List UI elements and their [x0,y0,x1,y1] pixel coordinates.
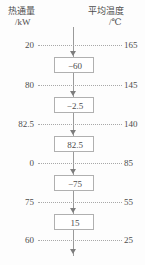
temperature-divider-line [38,85,122,86]
flow-arrow-icon [70,51,76,56]
interval-row: 60 25 [0,235,145,247]
temperature-divider-line [38,240,122,241]
flux-value: 60 [0,235,34,246]
interval-load-label: −75 [55,176,95,192]
temperature-divider-line [38,45,122,46]
interval-load-box: 82.5 [54,136,94,152]
flux-value: 0 [0,158,34,169]
flow-arrow-icon [70,169,76,174]
temperature-divider-line [38,124,122,125]
temperature-value: 145 [124,80,145,91]
flow-arrow-icon [70,208,76,213]
flux-value: 75 [0,197,34,208]
temperature-value: 55 [124,197,145,208]
temperature-value: 85 [124,158,145,169]
right-column-unit: /℃ [109,17,122,28]
left-column-title: 热通量 [8,6,35,17]
interval-load-label: −60 [55,58,95,74]
temperature-value: 165 [124,40,145,51]
flow-arrow-icon [70,130,76,135]
interval-load-box: −2.5 [54,97,94,113]
interval-load-label: 15 [55,215,95,231]
flux-value: 20 [0,40,34,51]
interval-load-label: −2.5 [55,98,95,114]
left-column-unit: /kW [15,17,31,28]
interval-load-box: −60 [54,57,94,73]
flow-arrow-icon [70,91,76,96]
heat-cascade-diagram: 热通量 /kW 平均温度 /℃ 20 165 −60 80 145 −2.5 8… [0,0,145,265]
flux-value: 80 [0,80,34,91]
right-column-title: 平均温度 [88,6,124,17]
interval-load-box: 15 [54,214,94,230]
flow-arrow-icon [70,249,76,254]
interval-load-label: 82.5 [55,137,95,153]
interval-load-box: −75 [54,175,94,191]
temperature-value: 25 [124,235,145,246]
temperature-value: 140 [124,119,145,130]
flux-value: 82.5 [0,119,34,130]
temperature-divider-line [38,202,122,203]
temperature-divider-line [38,163,122,164]
